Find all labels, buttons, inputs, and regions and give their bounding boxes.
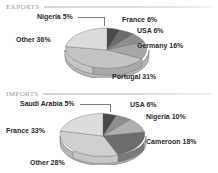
imports-pie-chart [58, 107, 148, 165]
exports-slice-other [66, 28, 108, 50]
imports-label-cameroon: Cameroon 18% [146, 138, 197, 146]
exports-label-usa: USA 6% [137, 27, 164, 35]
imports-label-nigeria: Nigeria 10% [146, 113, 186, 121]
exports-label-nigeria: Nigeria 5% [37, 13, 73, 21]
exports-leader-nigeria-drop [104, 17, 105, 26]
imports-label-saudi-arabia: Saudi Arabia 5% [20, 100, 75, 108]
exports-label-germany: Germany 16% [137, 42, 183, 50]
exports-chart-panel: EXPORTS [0, 0, 218, 86]
imports-chart-panel: IMPORTS [0, 87, 218, 173]
exports-chart-area: Nigeria 5% France 6% USA 6% Germany 16% … [0, 10, 218, 86]
exports-header-rule [44, 6, 213, 8]
imports-leader-saudi-arabia-drop [110, 104, 111, 112]
imports-leader-saudi-arabia [80, 104, 111, 105]
imports-label-other: Other 28% [30, 159, 65, 167]
imports-header-rule [43, 93, 212, 95]
exports-label-portugal: Portugal 31% [112, 73, 156, 81]
exports-label-france: France 6% [122, 16, 157, 24]
imports-label-france: France 33% [6, 127, 45, 135]
exports-label-other: Other 36% [16, 36, 51, 44]
exports-leader-nigeria [78, 17, 105, 18]
imports-label-usa: USA 6% [130, 101, 157, 109]
imports-chart-area: Saudi Arabia 5% USA 6% Nigeria 10% Camer… [0, 97, 218, 173]
